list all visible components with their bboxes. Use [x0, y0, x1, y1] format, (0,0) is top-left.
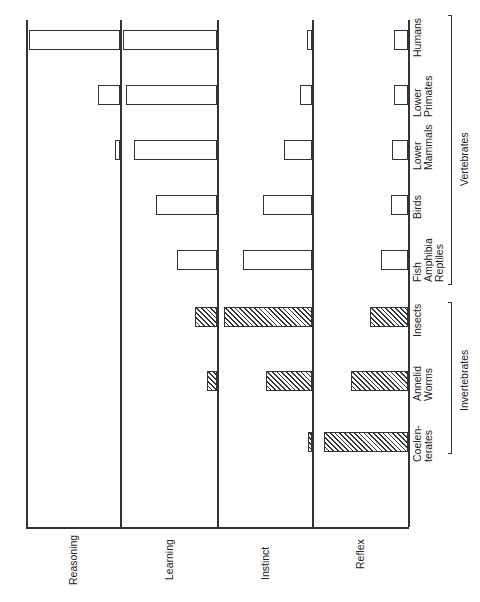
bar-learning-4	[156, 195, 217, 215]
panel-label-instinct: Instinct	[259, 547, 271, 580]
bar-reflex-4	[391, 195, 408, 215]
bar-reasoning-7	[29, 30, 120, 50]
bar-instinct-7	[307, 30, 312, 50]
category-label: Birds	[412, 195, 423, 219]
bar-reflex-7	[394, 30, 408, 50]
panel-divider	[408, 20, 410, 527]
bar-learning-6	[126, 85, 217, 105]
panel-divider	[120, 20, 122, 527]
bar-reflex-1	[351, 371, 408, 391]
panel-label-reflex: Reflex	[354, 539, 366, 569]
panel-divider	[26, 20, 28, 527]
panel-divider	[217, 20, 219, 527]
bar-learning-7	[123, 30, 217, 50]
panel-divider	[312, 20, 314, 527]
panel-label-reasoning: Reasoning	[67, 535, 79, 585]
bar-reflex-0	[324, 432, 408, 452]
category-axis	[26, 527, 409, 529]
bar-reflex-6	[394, 85, 408, 105]
brace-invertebrates	[448, 302, 452, 454]
category-label: LowerPrimates	[412, 76, 434, 117]
bar-reflex-3	[381, 250, 408, 270]
brace-vertebrates	[448, 15, 452, 285]
group-label-invertebrates: Invertebrates	[458, 350, 470, 411]
group-label-vertebrates: Vertebrates	[458, 132, 470, 186]
category-label: LowerMammals	[412, 124, 434, 170]
panel-label-learning: Learning	[163, 539, 175, 580]
bar-learning-1	[207, 371, 217, 391]
category-label: Insects	[412, 303, 423, 336]
bar-reflex-5	[392, 140, 408, 160]
bar-instinct-5	[284, 140, 312, 160]
bar-instinct-2	[224, 307, 312, 327]
bar-instinct-0	[308, 432, 312, 452]
category-label: Coelen-terates	[412, 425, 434, 462]
bar-learning-5	[134, 140, 217, 160]
bar-instinct-3	[243, 250, 312, 270]
bar-learning-2	[195, 307, 217, 327]
category-label: FishAmphibiaReptiles	[412, 239, 445, 283]
bar-reasoning-5	[115, 140, 120, 160]
bar-instinct-6	[300, 85, 312, 105]
category-label: AnnelidWorms	[412, 366, 434, 401]
bar-instinct-1	[266, 371, 312, 391]
bar-reasoning-6	[98, 85, 120, 105]
bar-reflex-2	[370, 307, 408, 327]
bar-instinct-4	[263, 195, 312, 215]
bar-learning-3	[177, 250, 217, 270]
category-label: Humans	[412, 18, 423, 57]
